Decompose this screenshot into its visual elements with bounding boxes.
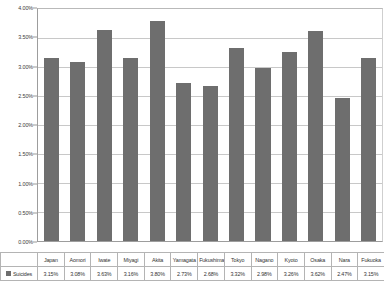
value-cell: 2.47% <box>331 267 358 281</box>
y-axis-tick-label: 3.00% <box>18 64 33 70</box>
bar-miyagi[interactable] <box>123 58 138 241</box>
category-cell: Nara <box>331 253 358 267</box>
bar-fukuoka[interactable] <box>361 58 376 241</box>
value-cell: 3.80% <box>144 267 171 281</box>
bar-slot <box>117 9 143 241</box>
bar-slot <box>197 9 223 241</box>
bar-slot <box>38 9 64 241</box>
bar-slot <box>64 9 90 241</box>
legend-label: Suicides <box>13 271 32 277</box>
bar-osaka[interactable] <box>308 31 323 241</box>
suicide-rate-bar-chart: 4.00%3.50%3.00%2.50%2.00%1.50%1.00%0.50%… <box>0 0 384 290</box>
bar-slot <box>91 9 117 241</box>
category-cell: Kyoto <box>278 253 305 267</box>
data-table: JapanAomoriIwateMiyagiAkitaYamagataFukus… <box>0 252 384 281</box>
category-cell: Tokyo <box>224 253 251 267</box>
bar-japan[interactable] <box>44 58 59 241</box>
category-cell: Aomori <box>64 253 91 267</box>
bar-kyoto[interactable] <box>282 52 297 241</box>
bar-slot <box>276 9 302 241</box>
bar-nara[interactable] <box>335 98 350 241</box>
category-cell: Miyagi <box>118 253 145 267</box>
value-cell: 2.98% <box>251 267 278 281</box>
plot-region: 4.00%3.50%3.00%2.50%2.00%1.50%1.00%0.50%… <box>0 0 384 252</box>
value-cell: 2.68% <box>198 267 225 281</box>
bar-tokyo[interactable] <box>229 48 244 241</box>
value-cell: 3.15% <box>38 267 65 281</box>
y-axis-tick-label: 3.50% <box>18 34 33 40</box>
value-cell: 3.16% <box>118 267 145 281</box>
value-cell: 3.26% <box>278 267 305 281</box>
value-cell: 3.08% <box>64 267 91 281</box>
y-axis-tick-label: 4.00% <box>18 5 33 11</box>
table-corner-cell <box>1 253 38 267</box>
bar-iwate[interactable] <box>97 30 112 241</box>
y-axis-tick-label: 2.50% <box>18 93 33 99</box>
value-cell: 3.15% <box>358 267 384 281</box>
legend-swatch-icon <box>6 271 11 276</box>
category-cell: Fukuoka <box>358 253 384 267</box>
bars-layer <box>38 9 382 241</box>
y-axis-tick-label: 0.00% <box>18 239 33 245</box>
bar-aomori[interactable] <box>70 62 85 241</box>
table-row-categories: JapanAomoriIwateMiyagiAkitaYamagataFukus… <box>1 253 384 267</box>
value-cell: 3.63% <box>91 267 118 281</box>
category-cell: Yamagata <box>171 253 198 267</box>
y-axis: 4.00%3.50%3.00%2.50%2.00%1.50%1.00%0.50%… <box>0 0 37 252</box>
legend-entry: Suicides <box>1 267 38 281</box>
bar-akita[interactable] <box>150 21 165 241</box>
bar-fukushima[interactable] <box>203 86 218 241</box>
value-cell: 3.62% <box>304 267 331 281</box>
y-axis-tick-label: 1.50% <box>18 151 33 157</box>
bar-nagano[interactable] <box>255 68 270 241</box>
category-cell: Japan <box>38 253 65 267</box>
bar-slot <box>223 9 249 241</box>
bar-slot <box>356 9 382 241</box>
bar-slot <box>303 9 329 241</box>
category-cell: Nagano <box>251 253 278 267</box>
y-axis-tick-label: 1.00% <box>18 181 33 187</box>
bar-slot <box>144 9 170 241</box>
plot-area <box>37 8 383 242</box>
bar-slot <box>250 9 276 241</box>
value-cell: 2.73% <box>171 267 198 281</box>
category-cell: Fukushima <box>198 253 225 267</box>
value-cell: 3.32% <box>224 267 251 281</box>
category-cell: Iwate <box>91 253 118 267</box>
y-axis-tick-label: 2.00% <box>18 122 33 128</box>
table-row-values: Suicides 3.15%3.08%3.63%3.16%3.80%2.73%2… <box>1 267 384 281</box>
category-cell: Osaka <box>304 253 331 267</box>
bar-slot <box>170 9 196 241</box>
bar-slot <box>329 9 355 241</box>
y-axis-tick-label: 0.50% <box>18 210 33 216</box>
category-cell: Akita <box>144 253 171 267</box>
bar-yamagata[interactable] <box>176 83 191 241</box>
data-table-region: JapanAomoriIwateMiyagiAkitaYamagataFukus… <box>0 252 384 290</box>
